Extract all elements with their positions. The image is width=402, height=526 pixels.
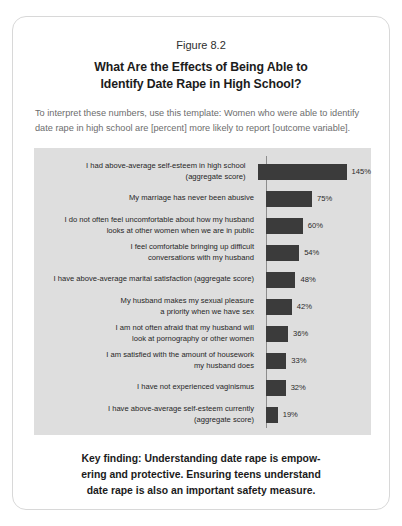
bar-chart-plot: I had above-average self-esteem in high … xyxy=(34,148,371,435)
bar-zone: 42% xyxy=(260,293,371,320)
figure-key-finding: Key finding: Understanding date rape is … xyxy=(13,451,389,499)
key-finding-line-3: date rape is also an important safety me… xyxy=(13,483,389,499)
bar-label-line: I had above-average self-esteem in high … xyxy=(34,161,246,171)
bar-label-line: conversations with my husband xyxy=(34,253,254,263)
bar-zone: 145% xyxy=(252,158,371,185)
bar-value-label: 145% xyxy=(352,167,371,176)
bar-label: I do not often feel uncomfortable about … xyxy=(34,215,260,236)
bar-value-label: 42% xyxy=(297,302,312,311)
figure-title-line-2: Identify Date Rape in High School? xyxy=(13,76,389,93)
bar-zone: 75% xyxy=(260,185,371,212)
bar xyxy=(266,191,312,207)
chart-panel: I had above-average self-esteem in high … xyxy=(34,148,371,435)
bar xyxy=(266,299,292,315)
bar xyxy=(266,326,288,342)
bar-row: I had above-average self-esteem in high … xyxy=(34,158,371,185)
bar-row: I have not experienced vaginismus32% xyxy=(34,374,371,401)
bar-label: I had above-average self-esteem in high … xyxy=(34,161,252,182)
bar-value-label: 36% xyxy=(293,329,308,338)
bar-value-label: 19% xyxy=(283,410,298,419)
bar-label: My marriage has never been abusive xyxy=(34,193,260,203)
bar xyxy=(266,407,278,423)
bar-row: My husband makes my sexual pleasurea pri… xyxy=(34,293,371,320)
bar-zone: 33% xyxy=(260,347,371,374)
bar-label-line: I have not experienced vaginismus xyxy=(34,382,254,392)
bar-label: My husband makes my sexual pleasurea pri… xyxy=(34,296,260,317)
bar-value-label: 75% xyxy=(317,194,332,203)
bar-value-label: 54% xyxy=(304,248,319,257)
bar xyxy=(266,380,286,396)
key-finding-line-2: ering and protective. Ensuring teens und… xyxy=(13,467,389,483)
bar-label-line: My husband makes my sexual pleasure xyxy=(34,296,254,306)
bar-label: I have not experienced vaginismus xyxy=(34,382,260,392)
bar-label-line: My marriage has never been abusive xyxy=(34,193,254,203)
bar-row: My marriage has never been abusive75% xyxy=(34,185,371,212)
bar-row: I have above-average self-esteem current… xyxy=(34,401,371,428)
bar xyxy=(266,272,295,288)
bar-zone: 60% xyxy=(260,212,371,239)
bar-zone: 32% xyxy=(260,374,371,401)
figure-number: Figure 8.2 xyxy=(13,17,389,52)
bar-label-line: looks at other women when we are in publ… xyxy=(34,226,254,236)
bar xyxy=(266,218,303,234)
bar-label: I have above-average self-esteem current… xyxy=(34,404,260,425)
figure-title: What Are the Effects of Being Able to Id… xyxy=(13,52,389,92)
bar-label-line: I have above-average marital satisfactio… xyxy=(34,274,254,284)
bar-row: I am not often afraid that my husband wi… xyxy=(34,320,371,347)
bar-zone: 48% xyxy=(260,266,371,293)
bar-label-line: my husband does xyxy=(34,361,254,371)
bar-zone: 36% xyxy=(260,320,371,347)
bar-label-line: (aggregate score) xyxy=(34,172,246,182)
bar xyxy=(266,245,299,261)
bar-label-line: I am satisfied with the amount of housew… xyxy=(34,350,254,360)
bar-label-line: I do not often feel uncomfortable about … xyxy=(34,215,254,225)
bar xyxy=(266,353,286,369)
bar-value-label: 32% xyxy=(291,383,306,392)
figure-intro: To interpret these numbers, use this tem… xyxy=(13,92,389,136)
bar-value-label: 60% xyxy=(308,221,323,230)
figure-number-text: Figure 8.2 xyxy=(176,39,226,51)
bar-label-line: a priority when we have sex xyxy=(34,307,254,317)
bar-label-line: I am not often afraid that my husband wi… xyxy=(34,323,254,333)
bar-label: I feel comfortable bringing up difficult… xyxy=(34,242,260,263)
bar-zone: 19% xyxy=(260,401,371,428)
bar-label: I am not often afraid that my husband wi… xyxy=(34,323,260,344)
figure-intro-line-1: To interpret these numbers, use this tem… xyxy=(35,106,367,121)
figure-card: Figure 8.2 What Are the Effects of Being… xyxy=(12,16,390,510)
bar-label-line: I feel comfortable bringing up difficult xyxy=(34,242,254,252)
bar-label: I have above-average marital satisfactio… xyxy=(34,274,260,284)
bar-row: I feel comfortable bringing up difficult… xyxy=(34,239,371,266)
bar-label: I am satisfied with the amount of housew… xyxy=(34,350,260,371)
bar-label-line: I have above-average self-esteem current… xyxy=(34,404,254,414)
bar-value-label: 48% xyxy=(300,275,315,284)
bar-row: I do not often feel uncomfortable about … xyxy=(34,212,371,239)
key-finding-line-1: Key finding: Understanding date rape is … xyxy=(13,451,389,467)
bar-row: I am satisfied with the amount of housew… xyxy=(34,347,371,374)
bar-value-label: 33% xyxy=(291,356,306,365)
figure-title-line-1: What Are the Effects of Being Able to xyxy=(13,59,389,76)
bar-label-line: look at pornography or other women xyxy=(34,334,254,344)
bar-label-line: (aggregate score) xyxy=(34,415,254,425)
bar-row: I have above-average marital satisfactio… xyxy=(34,266,371,293)
bar-zone: 54% xyxy=(260,239,371,266)
figure-intro-line-2: date rape in high school are [percent] m… xyxy=(35,121,367,136)
bar xyxy=(258,164,347,180)
